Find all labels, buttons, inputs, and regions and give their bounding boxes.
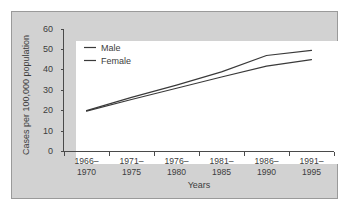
x-tick-label-line2: 1970 <box>64 167 109 178</box>
x-tick-label: 1976–1980 <box>154 156 199 177</box>
series-line-female <box>87 60 312 111</box>
x-tick-label: 1991–1995 <box>289 156 334 177</box>
x-tick-label-line1: 1966– <box>64 156 109 167</box>
x-tick-label-line2: 1985 <box>199 167 244 178</box>
x-tick-label-line1: 1991– <box>289 156 334 167</box>
x-tick-label: 1966–1970 <box>64 156 109 177</box>
x-tick-label: 1971–1975 <box>109 156 154 177</box>
figure-container: 0102030405060 1966–19701971–19751976–198… <box>0 0 352 214</box>
x-tick-label-line2: 1980 <box>154 167 199 178</box>
legend-label-female: Female <box>101 56 131 66</box>
x-tick-label-line1: 1971– <box>109 156 154 167</box>
x-tick-label-line1: 1976– <box>154 156 199 167</box>
y-axis-title: Cases per 100,000 population <box>21 20 31 170</box>
x-tick-label-line1: 1981– <box>199 156 244 167</box>
x-axis-title: Years <box>64 180 334 190</box>
x-axis-tick-labels: 1966–19701971–19751976–19801981–19851986… <box>64 156 334 177</box>
x-tick-label: 1981–1985 <box>199 156 244 177</box>
x-tick-label-line2: 1975 <box>109 167 154 178</box>
x-tick-label: 1986–1990 <box>244 156 289 177</box>
x-tick-label-line1: 1986– <box>244 156 289 167</box>
x-tick-label-line2: 1990 <box>244 167 289 178</box>
legend-swatches <box>84 48 96 61</box>
legend-label-male: Male <box>101 43 121 53</box>
x-tick-label-line2: 1995 <box>289 167 334 178</box>
